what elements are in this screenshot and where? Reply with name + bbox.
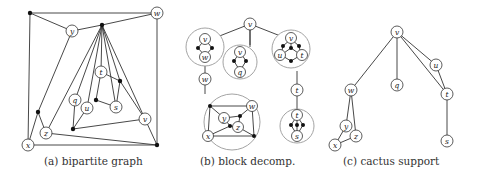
vertex-dot (118, 79, 122, 83)
node-u: u (81, 102, 93, 114)
svg-text:u: u (434, 61, 439, 70)
panel-b-block-decomposition: v v w w (186, 18, 314, 150)
node-x: x (329, 139, 341, 151)
node-s: s (110, 101, 122, 113)
node-w: w (345, 84, 357, 96)
caption-c: (c) cactus support (343, 155, 439, 167)
svg-text:w: w (249, 102, 256, 111)
node-s: s (441, 135, 453, 147)
svg-text:w: w (202, 53, 209, 62)
vertex-dot (94, 98, 98, 102)
svg-text:w: w (348, 86, 355, 95)
node-y: y (340, 120, 352, 132)
svg-text:y: y (343, 122, 349, 131)
vertex-dot (28, 11, 32, 15)
svg-text:u: u (85, 104, 90, 113)
caption-b: (b) block decomp. (200, 155, 295, 167)
block-ts: t s (280, 109, 314, 143)
node-q: q (391, 79, 403, 91)
svg-text:y: y (221, 114, 227, 123)
vertex-dot (71, 127, 75, 131)
svg-text:s: s (445, 137, 449, 146)
svg-text:w: w (154, 9, 161, 18)
block-vw: v w (186, 28, 224, 66)
svg-text:s: s (114, 103, 118, 112)
node-w: w (151, 7, 163, 19)
tree-node-t: t (291, 84, 303, 96)
node-q: q (69, 94, 81, 106)
svg-text:q: q (395, 81, 400, 90)
node-v: v (391, 26, 403, 38)
node-z: z (40, 127, 52, 139)
vertex-dot (100, 23, 104, 27)
vertex-dot (36, 110, 40, 114)
node-u: u (430, 59, 442, 71)
node-t: t (441, 88, 453, 100)
svg-text:u: u (278, 51, 283, 60)
vertex-dot (155, 143, 159, 147)
svg-text:w: w (202, 75, 209, 84)
node-y: y (66, 25, 78, 37)
svg-text:z: z (353, 132, 358, 141)
node-t: t (95, 66, 107, 78)
panel-a-bipartite-graph: w y t q u s v z x (22, 7, 163, 151)
tree-node-v: v (244, 18, 256, 30)
block-vut: v u t (272, 30, 310, 68)
figure: w y t q u s v z x v v w (0, 0, 477, 179)
caption-a: (a) bipartite graph (44, 155, 143, 167)
node-x: x (22, 139, 34, 151)
panel-c-cactus-support: v q u t s w y z x (329, 26, 453, 151)
svg-text:z: z (43, 129, 48, 138)
svg-text:q: q (238, 68, 243, 77)
svg-text:q: q (73, 96, 78, 105)
svg-text:s: s (295, 132, 299, 141)
block-vq: v q (223, 30, 257, 79)
node-z: z (350, 130, 362, 142)
tree-node-w: w (199, 73, 211, 85)
svg-text:y: y (69, 27, 75, 36)
node-v: v (139, 113, 151, 125)
block-wyzx: w y z x (203, 94, 261, 150)
svg-text:z: z (235, 123, 240, 132)
